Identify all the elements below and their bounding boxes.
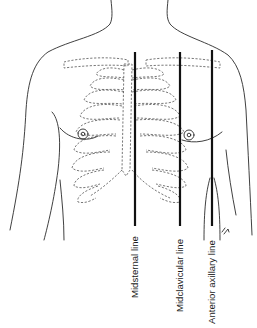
- right-nipple-icon: [184, 130, 194, 140]
- right-clavicle: [146, 58, 220, 68]
- midsternal-line-label: Midsternal line: [130, 236, 140, 298]
- flank-curve-left: [204, 178, 210, 240]
- left-nipple-center: [81, 132, 85, 136]
- neck-left-outline: [10, 0, 112, 230]
- left-nipple-icon: [78, 129, 88, 139]
- midclavicular-line-label: Midclavicular line: [175, 239, 185, 312]
- left-axilla-outline: [44, 112, 60, 240]
- left-rib-cage: [72, 68, 124, 203]
- right-nipple-center: [187, 133, 191, 137]
- sternum: [122, 64, 132, 176]
- flank-curve-right: [214, 178, 220, 240]
- anterior-axillary-line-label: Anterior axillary line: [207, 240, 217, 324]
- right-arm-inner: [226, 150, 236, 215]
- artist-signature-icon: [222, 228, 229, 234]
- left-arm-inner: [60, 180, 64, 240]
- chest-landmarks-diagram: Midsternal line Midclavicular line Anter…: [0, 0, 257, 328]
- left-clavicle: [64, 58, 128, 68]
